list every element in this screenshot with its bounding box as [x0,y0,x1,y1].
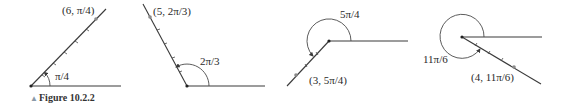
caption-text: Figure 10.2.2 [39,92,95,103]
figure-caption: ▲ Figure 10.2.2 [30,92,95,103]
pole-dot [327,39,330,42]
caption-marker-icon: ▲ [30,94,38,103]
pole-dot [185,84,188,87]
point-marker [148,15,152,19]
panel-5pi-over-4: (3, 5π/4) 5π/4 [287,8,408,87]
point-label: (4, 11π/6) [471,71,514,84]
pole-dot [29,84,32,87]
polar-coordinates-figure: (6, π/4) π/4 (5, 2π/3) 2π/3 (3, 5π/4) 5π… [0,0,566,105]
point-label: (3, 5π/4) [309,74,347,87]
angle-label: 5π/4 [340,8,360,20]
panel-pi-over-4: (6, π/4) π/4 [29,4,121,88]
angle-label: 2π/3 [200,55,220,67]
point-marker [294,73,298,77]
angle-arc [307,19,351,56]
pole-dot [460,35,463,38]
point-label: (6, π/4) [62,4,95,17]
point-marker [512,65,516,69]
panel-11pi-over-6: (4, 11π/6) 11π/6 [423,14,542,84]
angle-arc [44,72,50,86]
panel-2pi-over-3: (5, 2π/3) 2π/3 [143,4,265,88]
point-marker [94,17,98,21]
point-label: (5, 2π/3) [153,5,191,18]
angle-label: 11π/6 [423,53,448,65]
angle-label: π/4 [55,70,70,82]
